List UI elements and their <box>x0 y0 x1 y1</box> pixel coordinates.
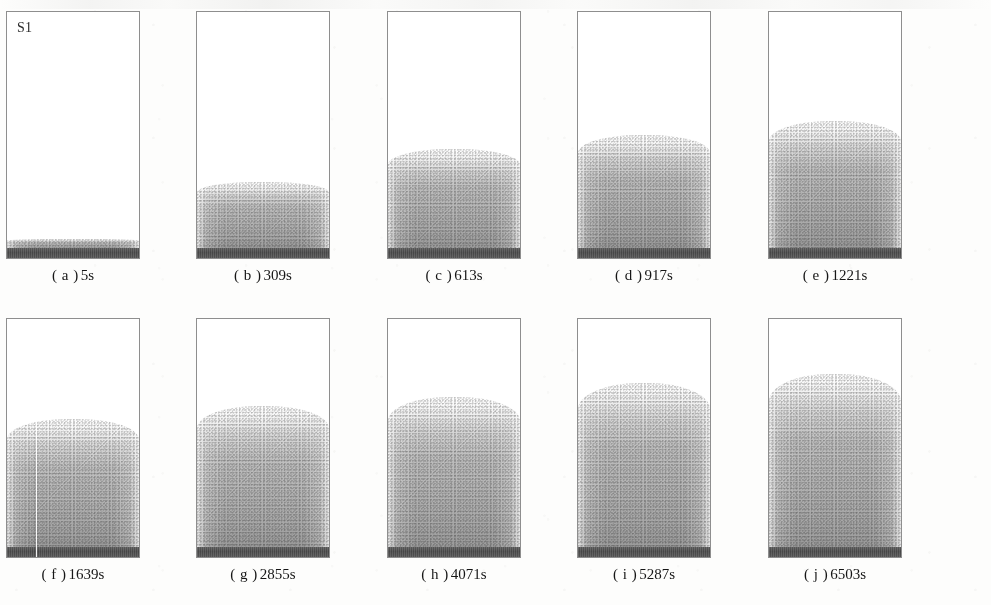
plume-j <box>769 374 901 547</box>
plume-grain-d <box>578 135 710 248</box>
caption-time-c: 613s <box>454 267 482 283</box>
caption-index-j: ( j ) <box>804 566 828 582</box>
bed-bar-a <box>7 248 139 258</box>
plume-grain-f <box>7 419 139 547</box>
panel-box-j <box>768 318 902 558</box>
panel-caption-i: ( i )5287s <box>577 566 711 583</box>
panel-box-b <box>196 11 330 259</box>
panel-caption-d: ( d )917s <box>577 267 711 284</box>
plume-h <box>388 397 520 547</box>
panel-cell-h: ( h )4071s <box>387 318 521 588</box>
bed-bar-f <box>7 547 139 557</box>
caption-time-i: 5287s <box>639 566 675 582</box>
panel-box-h <box>387 318 521 558</box>
plume-grain-a <box>7 239 139 248</box>
bed-bar-g <box>197 547 329 557</box>
panel-caption-a: ( a )5s <box>6 267 140 284</box>
caption-index-b: ( b ) <box>234 267 262 283</box>
plume-grain-c <box>388 149 520 248</box>
scan-streak-artifact <box>36 319 37 557</box>
panel-cell-d: ( d )917s <box>577 11 711 289</box>
caption-index-h: ( h ) <box>421 566 449 582</box>
panel-caption-e: ( e )1221s <box>768 267 902 284</box>
panel-box-i <box>577 318 711 558</box>
caption-time-h: 4071s <box>451 566 487 582</box>
caption-index-e: ( e ) <box>803 267 830 283</box>
caption-index-a: ( a ) <box>52 267 79 283</box>
plume-grain-g <box>197 406 329 547</box>
panel-caption-b: ( b )309s <box>196 267 330 284</box>
panel-box-a: S1 <box>6 11 140 259</box>
plume-a <box>7 239 139 248</box>
panel-caption-j: ( j )6503s <box>768 566 902 583</box>
panel-cell-a: S1( a )5s <box>6 11 140 289</box>
caption-time-d: 917s <box>645 267 673 283</box>
plume-grain-b <box>197 182 329 248</box>
plume-e <box>769 121 901 248</box>
panel-caption-h: ( h )4071s <box>387 566 521 583</box>
caption-index-g: ( g ) <box>230 566 258 582</box>
plume-g <box>197 406 329 547</box>
series-tag-label: S1 <box>17 20 32 36</box>
caption-time-a: 5s <box>81 267 94 283</box>
panel-caption-g: ( g )2855s <box>196 566 330 583</box>
plume-b <box>197 182 329 248</box>
panel-cell-i: ( i )5287s <box>577 318 711 588</box>
top-scan-smudge <box>0 0 991 9</box>
plume-d <box>578 135 710 248</box>
plume-grain-h <box>388 397 520 547</box>
bed-bar-b <box>197 248 329 258</box>
caption-index-i: ( i ) <box>613 566 637 582</box>
plume-f <box>7 419 139 547</box>
panel-box-f <box>6 318 140 558</box>
caption-index-f: ( f ) <box>42 566 67 582</box>
panel-caption-f: ( f )1639s <box>6 566 140 583</box>
plume-grain-i <box>578 383 710 547</box>
panel-cell-j: ( j )6503s <box>768 318 902 588</box>
figure-panel-series: S1( a )5s( b )309s( c )613s( d )917s( e … <box>0 0 991 605</box>
bed-bar-d <box>578 248 710 258</box>
caption-time-j: 6503s <box>830 566 866 582</box>
plume-c <box>388 149 520 248</box>
caption-index-d: ( d ) <box>615 267 643 283</box>
panel-box-e <box>768 11 902 259</box>
caption-time-e: 1221s <box>831 267 867 283</box>
plume-grain-e <box>769 121 901 248</box>
plume-grain-j <box>769 374 901 547</box>
plume-i <box>578 383 710 547</box>
panel-cell-c: ( c )613s <box>387 11 521 289</box>
panel-box-g <box>196 318 330 558</box>
bed-bar-e <box>769 248 901 258</box>
bed-bar-j <box>769 547 901 557</box>
panel-cell-f: ( f )1639s <box>6 318 140 588</box>
panel-box-d <box>577 11 711 259</box>
caption-time-b: 309s <box>264 267 292 283</box>
caption-index-c: ( c ) <box>426 267 453 283</box>
panel-box-c <box>387 11 521 259</box>
bed-bar-c <box>388 248 520 258</box>
panel-cell-g: ( g )2855s <box>196 318 330 588</box>
panel-caption-c: ( c )613s <box>387 267 521 284</box>
bed-bar-i <box>578 547 710 557</box>
caption-time-f: 1639s <box>69 566 105 582</box>
panel-cell-e: ( e )1221s <box>768 11 902 289</box>
bed-bar-h <box>388 547 520 557</box>
caption-time-g: 2855s <box>260 566 296 582</box>
panel-cell-b: ( b )309s <box>196 11 330 289</box>
